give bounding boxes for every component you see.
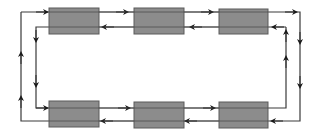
node-5 (134, 102, 184, 128)
node-3 (219, 9, 268, 34)
dual-ring-diagram (0, 0, 322, 137)
inner-ring (36, 27, 286, 108)
node-6 (219, 102, 268, 128)
node-4 (49, 101, 99, 127)
inner-ring-path (36, 27, 286, 108)
nodes (49, 8, 268, 128)
